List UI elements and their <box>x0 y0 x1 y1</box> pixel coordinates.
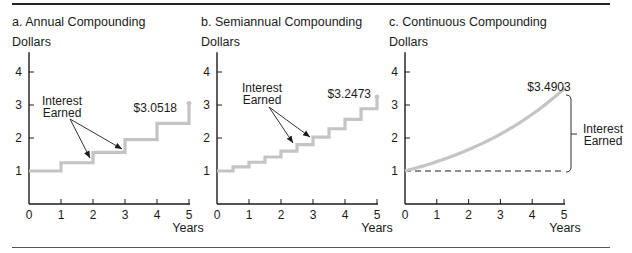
x-tick-label: 0 <box>402 208 409 222</box>
y-tick-label: 2 <box>15 131 22 145</box>
x-tick-label: 1 <box>58 208 65 222</box>
panel-title: c. Continuous Compounding <box>389 15 547 29</box>
end-point-marker <box>187 101 192 106</box>
charts-svg: a. Annual Compounding Dollars Years 1234… <box>0 0 632 253</box>
x-tick-label: 1 <box>433 208 440 222</box>
plot-area: 1234012345 <box>391 52 567 222</box>
x-axis-label: Years <box>549 221 581 235</box>
y-axis-label: Dollars <box>12 35 51 49</box>
y-tick-label: 1 <box>203 164 210 178</box>
y-tick-label: 3 <box>15 98 22 112</box>
panel-annual: a. Annual Compounding Dollars Years 1234… <box>12 15 204 235</box>
growth-series <box>217 97 377 171</box>
y-axis-label: Dollars <box>389 35 428 49</box>
x-tick-label: 5 <box>561 208 568 222</box>
x-tick-label: 4 <box>154 208 161 222</box>
interest-bracket <box>566 95 571 172</box>
y-tick-label: 4 <box>15 65 22 79</box>
end-point-marker <box>375 94 380 99</box>
y-tick-label: 4 <box>203 65 210 79</box>
x-tick-label: 5 <box>374 208 381 222</box>
x-tick-label: 0 <box>26 208 33 222</box>
x-tick-label: 5 <box>186 208 193 222</box>
annotation-arrow <box>269 107 293 143</box>
x-tick-label: 2 <box>90 208 97 222</box>
x-tick-label: 1 <box>246 208 253 222</box>
x-tick-label: 3 <box>310 208 317 222</box>
y-tick-label: 2 <box>391 131 398 145</box>
panel-title: a. Annual Compounding <box>12 15 145 29</box>
end-value-label: $3.4903 <box>527 80 571 94</box>
y-tick-label: 1 <box>391 164 398 178</box>
y-tick-label: 2 <box>203 131 210 145</box>
panel-continuous: c. Continuous Compounding Dollars Years … <box>389 15 624 235</box>
plot-area: 1234012345 <box>203 52 380 222</box>
x-tick-label: 2 <box>278 208 285 222</box>
x-tick-label: 4 <box>529 208 536 222</box>
top-rule <box>12 3 610 5</box>
growth-series <box>405 89 564 171</box>
y-axis-label: Dollars <box>201 35 240 49</box>
y-tick-label: 1 <box>15 164 22 178</box>
annotation-line2: Earned <box>584 134 623 148</box>
x-axis-label: Years <box>361 221 393 235</box>
x-tick-label: 2 <box>465 208 472 222</box>
x-tick-label: 3 <box>497 208 504 222</box>
panel-semiannual: b. Semiannual Compounding Dollars Years … <box>201 15 393 235</box>
annotation-line2: Earned <box>243 93 282 107</box>
x-tick-label: 3 <box>122 208 129 222</box>
end-value-label: $3.2473 <box>328 87 372 101</box>
end-value-label: $3.0518 <box>134 101 178 115</box>
x-axis-label: Years <box>172 221 204 235</box>
annotation-line2: Earned <box>43 106 82 120</box>
y-tick-label: 4 <box>391 65 398 79</box>
y-tick-label: 3 <box>391 98 398 112</box>
panel-title: b. Semiannual Compounding <box>201 15 362 29</box>
x-tick-label: 4 <box>342 208 349 222</box>
bottom-rule <box>12 247 610 248</box>
annotation-arrow <box>269 107 310 137</box>
plot-area: 1234012345 <box>15 52 192 222</box>
x-tick-label: 0 <box>214 208 221 222</box>
y-tick-label: 3 <box>203 98 210 112</box>
compounding-figure: a. Annual Compounding Dollars Years 1234… <box>0 0 632 253</box>
